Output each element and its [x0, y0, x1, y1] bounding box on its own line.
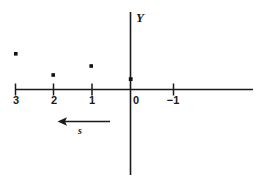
vector-label-s: s: [78, 126, 82, 136]
figure-canvas: Y 3 2 1 0 −1 s: [0, 0, 259, 186]
tick-label-2: 2: [47, 95, 61, 106]
tick-label-1: 1: [85, 95, 99, 106]
tick-label-3: 3: [9, 95, 23, 106]
data-point-x3: [14, 52, 18, 56]
plot-area: [0, 0, 259, 186]
data-point-x0: [129, 77, 133, 81]
y-axis-label: Y: [136, 11, 144, 24]
tick-label-minus-1: −1: [163, 95, 183, 106]
data-point-x1: [89, 64, 93, 68]
tick-label-0: 0: [133, 95, 145, 106]
data-point-x2: [51, 73, 55, 77]
